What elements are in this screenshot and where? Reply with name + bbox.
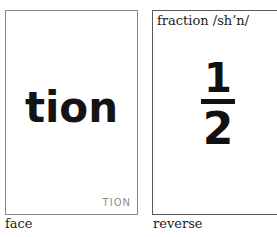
fraction-numerator: 1 xyxy=(201,59,235,97)
fraction-image: 1 2 xyxy=(201,59,235,150)
reverse-caption: reverse xyxy=(153,216,203,231)
face-caption: face xyxy=(5,216,33,231)
reverse-heading: fraction /sh’n/ xyxy=(157,13,249,28)
face-card: tion TION xyxy=(5,10,138,215)
card-corner-label: TION xyxy=(103,197,131,208)
card-word: tion xyxy=(6,83,137,132)
reverse-card: fraction /sh’n/ 1 2 xyxy=(152,10,277,215)
fraction-denominator: 2 xyxy=(201,108,235,150)
